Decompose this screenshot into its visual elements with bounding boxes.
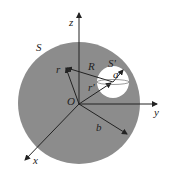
label-x: x [32,154,38,166]
label-r-prime: r' [88,81,95,93]
label-z: z [68,16,74,28]
label-a: a [113,68,119,80]
label-y: y [153,106,159,118]
label-S: S [36,41,42,53]
label-r: r [56,63,61,75]
diagram: z y x S S' O r R r' a b [0,0,176,177]
label-b: b [96,121,102,133]
sphere-cavity-diagram: z y x S S' O r R r' a b [0,0,176,177]
label-R: R [87,60,95,72]
label-O: O [67,95,75,107]
